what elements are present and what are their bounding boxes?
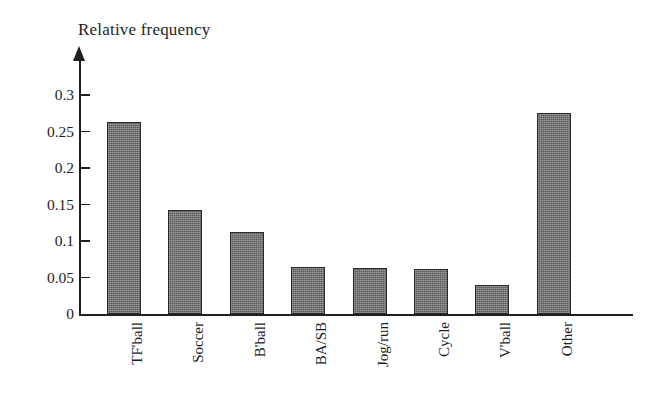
y-axis-title: Relative frequency	[78, 20, 210, 40]
x-axis-label-ba-sb: BA/SB	[314, 322, 329, 365]
bar-soccer	[168, 210, 202, 314]
y-axis-tick	[80, 204, 90, 206]
x-axis-label-other: Other	[560, 322, 575, 356]
y-axis-tick	[80, 131, 90, 133]
y-axis-tick-label: 0.15	[34, 197, 74, 213]
bar-jog-run	[353, 268, 387, 314]
y-axis-tick-label: 0.05	[34, 270, 74, 286]
bar-cycle	[414, 269, 448, 314]
y-axis-tick	[80, 277, 90, 279]
x-axis-label-tf-ball: TF'ball	[130, 322, 145, 365]
bar-ba-sb	[291, 267, 325, 314]
x-axis-label-v-ball: V'ball	[498, 322, 513, 358]
bar-other	[537, 113, 571, 314]
x-axis-label-cycle: Cycle	[437, 322, 452, 357]
bar-b-ball	[230, 232, 264, 314]
y-axis-tick-label: 0.2	[34, 160, 74, 176]
bar-tf-ball	[107, 122, 141, 314]
y-axis-tick	[80, 94, 90, 96]
y-axis-tick-label: 0.3	[34, 87, 74, 103]
x-axis-label-b-ball: B'ball	[253, 322, 268, 357]
x-axis-label-soccer: Soccer	[191, 322, 206, 363]
y-axis-tick	[80, 240, 90, 242]
bar-v-ball	[475, 285, 509, 314]
relative-frequency-bar-chart: Relative frequency 00.050.10.150.20.250.…	[0, 0, 663, 405]
y-axis-tick-label: 0	[34, 306, 74, 322]
y-axis-tick-label: 0.1	[34, 233, 74, 249]
x-axis-label-jog-run: Jog/run	[376, 322, 391, 367]
y-axis-tick	[80, 167, 90, 169]
y-axis-tick-label: 0.25	[34, 124, 74, 140]
x-axis-line	[79, 314, 633, 316]
